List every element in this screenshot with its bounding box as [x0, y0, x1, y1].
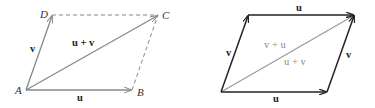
v-right-label: v: [346, 49, 352, 60]
point-a-label: A: [14, 84, 22, 96]
v-plus-u-label: v + u: [264, 39, 286, 50]
vector-u-plus-v-label: u + v: [72, 37, 95, 48]
vector-v-label: v: [30, 43, 36, 54]
left-parallelogram: A B C D u v u + v: [14, 8, 170, 103]
u-bottom-label: u: [273, 93, 279, 104]
vector-u-label: u: [77, 92, 83, 103]
vector-u-plus-v-arrow: [26, 16, 157, 90]
v-left-label: v: [226, 47, 232, 58]
point-c-label: C: [162, 9, 170, 21]
vector-addition-diagram: A B C D u v u + v u u v v v + u u + v: [0, 0, 375, 108]
point-d-label: D: [39, 8, 48, 20]
dashed-edge-bc: [132, 15, 158, 90]
right-parallelogram: u u v v v + u u + v: [221, 2, 354, 104]
diagonal-arrow: [221, 16, 353, 92]
u-plus-v-label: u + v: [284, 56, 306, 67]
u-top-label: u: [296, 2, 302, 13]
point-b-label: B: [137, 86, 144, 98]
